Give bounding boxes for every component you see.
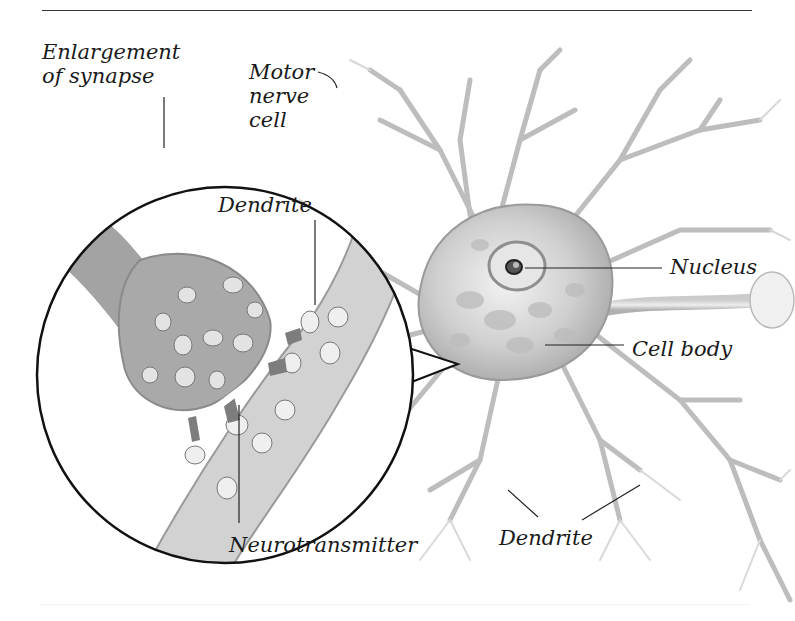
label-motor-nerve-cell: Motor nerve cell: [249, 60, 314, 132]
label-nucleus: Nucleus: [670, 255, 757, 279]
label-dendrite-inset: Dendrite: [218, 193, 312, 217]
label-enlargement-line1: Enlargement: [42, 40, 180, 64]
label-neurotransmitter: Neurotransmitter: [229, 533, 417, 557]
label-motor-line2: nerve: [249, 84, 314, 108]
label-enlargement-line2: of synapse: [42, 64, 180, 88]
label-enlargement-of-synapse: Enlargement of synapse: [42, 40, 180, 88]
synapse-inset: [30, 180, 458, 570]
neuron-illustration: [0, 0, 795, 621]
label-motor-line3: cell: [249, 108, 314, 132]
label-dendrite-bottom: Dendrite: [499, 526, 593, 550]
label-motor-line1: Motor: [249, 60, 314, 84]
label-cell-body: Cell body: [632, 337, 732, 361]
